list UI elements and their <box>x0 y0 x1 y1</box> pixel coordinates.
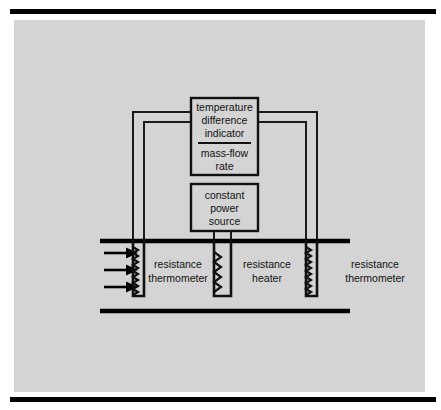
power-source-line-3: source <box>209 215 241 227</box>
upstream-thermometer-label-line-1: resistance <box>154 258 202 270</box>
figure-container: temperature difference indicator mass-fl… <box>0 0 441 410</box>
schematic-diagram: temperature difference indicator mass-fl… <box>0 0 441 410</box>
downstream-thermometer-label-line-2: thermometer <box>345 272 405 284</box>
bottom-rule <box>10 397 436 402</box>
indicator-numerator-line-3: indicator <box>205 127 245 139</box>
upstream-thermometer-label-line-2: thermometer <box>148 272 208 284</box>
power-source-line-1: constant <box>205 189 245 201</box>
indicator-numerator-line-2: difference <box>202 114 248 126</box>
heater-label-line-2: heater <box>252 272 282 284</box>
downstream-thermometer-label-line-1: resistance <box>351 258 399 270</box>
heater-label-line-1: resistance <box>243 258 291 270</box>
indicator-numerator-line-1: temperature <box>196 101 253 113</box>
indicator-denominator-line-1: mass-flow <box>201 147 249 159</box>
top-rule <box>10 9 436 14</box>
indicator-denominator-line-2: rate <box>215 160 233 172</box>
power-source-line-2: power <box>210 202 239 214</box>
